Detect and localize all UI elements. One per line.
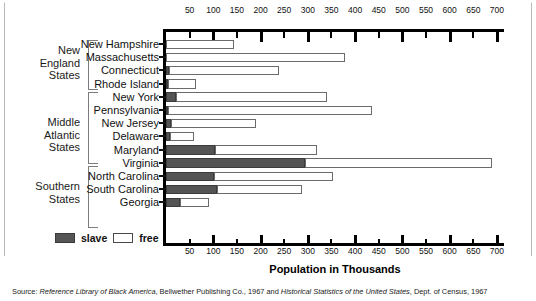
bar-row — [0, 38, 536, 51]
tick-bottom-50 — [189, 239, 191, 245]
legend-swatch-slave — [55, 233, 75, 243]
chart-root: New England States Middle Atlantic State… — [0, 0, 536, 301]
tick-bottom-500 — [401, 235, 404, 245]
bar-free-rhode-island — [168, 79, 196, 89]
tick-label-bottom-500: 500 — [390, 246, 414, 256]
bar-row — [0, 157, 536, 170]
source-mid: , Bellwether Publishing Co., 1967 and — [156, 287, 281, 296]
tick-label-top-350: 350 — [319, 5, 343, 15]
tick-label-top-100: 100 — [201, 5, 225, 15]
tick-label-bottom-700: 700 — [485, 246, 509, 256]
label-connector — [159, 149, 166, 151]
tick-label-top-300: 300 — [296, 5, 320, 15]
label-connector — [159, 69, 166, 71]
bar-free-new-hampshire — [166, 40, 234, 50]
tick-bottom-700 — [496, 235, 499, 245]
tick-bottom-300 — [307, 235, 310, 245]
tick-label-top-650: 650 — [461, 5, 485, 15]
bar-free-south-carolina — [217, 185, 303, 195]
bar-row — [0, 104, 536, 117]
legend-swatch-free — [113, 233, 133, 243]
tick-label-bottom-450: 450 — [367, 246, 391, 256]
legend-label-free: free — [139, 232, 158, 244]
bar-free-north-carolina — [214, 172, 333, 182]
label-connector — [159, 188, 166, 190]
bar-free-virginia — [305, 158, 493, 168]
source-ref1: Reference Library of Black America — [40, 287, 156, 296]
tick-label-top-550: 550 — [414, 5, 438, 15]
x-axis-title: Population in Thousands — [166, 263, 504, 275]
tick-label-top-500: 500 — [390, 5, 414, 15]
tick-label-bottom-550: 550 — [414, 246, 438, 256]
tick-label-bottom-600: 600 — [438, 246, 462, 256]
label-connector — [159, 201, 166, 203]
chart-legend: slave free — [55, 232, 159, 244]
bar-slave-maryland — [166, 145, 215, 155]
tick-label-top-400: 400 — [343, 5, 367, 15]
tick-label-bottom-400: 400 — [343, 246, 367, 256]
tick-label-top-700: 700 — [485, 5, 509, 15]
axis-top — [166, 29, 504, 32]
tick-label-bottom-200: 200 — [249, 246, 273, 256]
bar-row — [0, 51, 536, 64]
bar-row — [0, 64, 536, 77]
bar-row — [0, 196, 536, 209]
tick-bottom-550 — [425, 239, 427, 245]
tick-label-bottom-100: 100 — [201, 246, 225, 256]
label-connector — [159, 122, 166, 124]
tick-label-top-250: 250 — [272, 5, 296, 15]
bar-free-maryland — [215, 145, 317, 155]
bar-slave-south-carolina — [166, 185, 217, 195]
label-connector — [159, 56, 166, 58]
bar-slave-north-carolina — [166, 172, 214, 182]
bar-free-georgia — [180, 198, 210, 208]
source-caption: Source: Reference Library of Black Ameri… — [12, 287, 487, 296]
bar-free-new-jersey — [171, 119, 256, 129]
bar-free-pennsylvania — [168, 106, 372, 116]
bar-row — [0, 117, 536, 130]
source-ref2: Historical Statistics of the United Stat… — [281, 287, 410, 296]
source-prefix: Source: — [12, 287, 40, 296]
bar-slave-new-york — [166, 92, 176, 102]
bar-row — [0, 130, 536, 143]
tick-label-bottom-150: 150 — [225, 246, 249, 256]
bar-free-new-york — [176, 92, 327, 102]
bar-free-delaware — [170, 132, 194, 142]
bar-free-massachusetts — [166, 53, 345, 63]
tick-label-top-150: 150 — [225, 5, 249, 15]
tick-label-bottom-650: 650 — [461, 246, 485, 256]
tick-label-top-450: 450 — [367, 5, 391, 15]
label-connector — [159, 96, 166, 98]
tick-bottom-250 — [283, 239, 285, 245]
bar-row — [0, 170, 536, 183]
legend-label-slave: slave — [81, 232, 107, 244]
bar-row — [0, 91, 536, 104]
source-suffix: , Dept. of Census, 1967 — [410, 287, 488, 296]
bar-row — [0, 183, 536, 196]
bar-free-connecticut — [169, 66, 279, 76]
tick-bottom-200 — [260, 235, 263, 245]
tick-label-top-50: 50 — [178, 5, 202, 15]
bar-row — [0, 144, 536, 157]
tick-bottom-450 — [378, 239, 380, 245]
tick-label-top-600: 600 — [438, 5, 462, 15]
label-connector — [159, 109, 166, 111]
tick-label-top-200: 200 — [249, 5, 273, 15]
label-connector — [159, 135, 166, 137]
tick-bottom-600 — [449, 235, 452, 245]
tick-label-bottom-300: 300 — [296, 246, 320, 256]
tick-bottom-350 — [330, 239, 332, 245]
tick-bottom-100 — [212, 235, 215, 245]
label-connector — [159, 175, 166, 177]
label-connector — [159, 43, 166, 45]
tick-bottom-650 — [472, 239, 474, 245]
bar-slave-georgia — [166, 198, 180, 208]
tick-bottom-150 — [236, 239, 238, 245]
label-connector — [159, 162, 166, 164]
tick-label-bottom-250: 250 — [272, 246, 296, 256]
bar-row — [0, 78, 536, 91]
tick-bottom-400 — [354, 235, 357, 245]
label-connector — [159, 83, 166, 85]
tick-label-bottom-50: 50 — [178, 246, 202, 256]
tick-label-bottom-350: 350 — [319, 246, 343, 256]
